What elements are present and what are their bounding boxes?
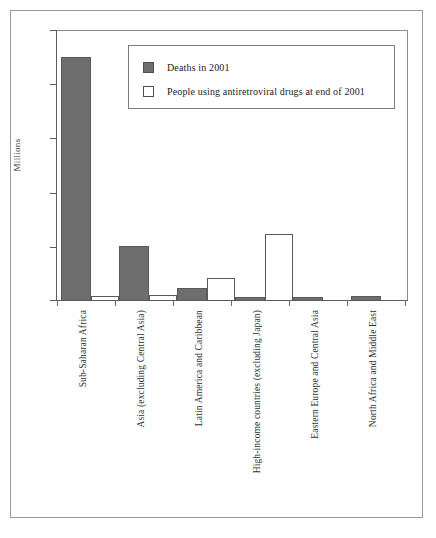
x-category-label: Asia (excluding Central Asia)	[136, 310, 146, 428]
legend-label: Deaths in 2001	[167, 62, 230, 73]
legend-swatch-filled-icon	[143, 62, 154, 73]
chart-page: 2.5 2 1.5 1 0.5 0 Millions	[0, 0, 436, 538]
legend-item-deaths: Deaths in 2001	[143, 55, 394, 79]
legend-label: People using antiretroviral drugs at end…	[167, 86, 365, 97]
x-category-label: North Africa and Middle East	[368, 310, 378, 427]
x-category-label: Eastern Europe and Central Asia	[310, 310, 320, 439]
chart-legend: Deaths in 2001 People using antiretrovir…	[128, 45, 395, 109]
legend-swatch-hollow-icon	[143, 86, 154, 97]
x-category-label: Latin America and Caribbean	[194, 310, 204, 426]
x-category-label: Sub-Saharan Africa	[78, 310, 88, 387]
x-category-label: High-income countries (excluding Japan)	[252, 310, 262, 473]
legend-item-arv: People using antiretroviral drugs at end…	[143, 79, 394, 103]
